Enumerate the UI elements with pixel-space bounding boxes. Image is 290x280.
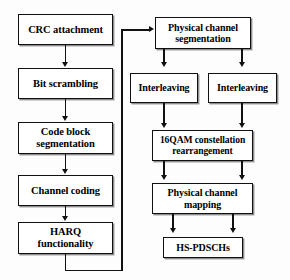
process-box-interleaving-left: Interleaving bbox=[130, 73, 198, 103]
process-box-harq-functionality: HARQ functionality bbox=[18, 222, 113, 254]
process-label-interleaving-right: Interleaving bbox=[215, 82, 270, 93]
process-label-code-block-segmentation: Code block segmentation bbox=[19, 126, 112, 150]
connector-harq-right-segment bbox=[65, 270, 123, 272]
arrowhead-code-block-to-channel-coding bbox=[62, 169, 68, 174]
process-label-crc-attachment: CRC attachment bbox=[26, 24, 105, 36]
process-label-qam-rearrangement: 16QAM constellation rearrangement bbox=[153, 135, 252, 156]
connector-interleaving-right-to-qam bbox=[241, 103, 243, 124]
connector-qam-to-mapping-left bbox=[163, 161, 165, 176]
process-box-interleaving-right: Interleaving bbox=[208, 73, 277, 103]
process-box-code-block-segmentation: Code block segmentation bbox=[18, 122, 113, 154]
process-box-physical-channel-mapping: Physical channel mapping bbox=[152, 183, 253, 214]
arrowhead-harq-to-physical-channel-segmentation bbox=[149, 26, 154, 32]
connector-code-block-to-channel-coding bbox=[65, 154, 67, 170]
process-box-bit-scrambling: Bit scrambling bbox=[18, 68, 113, 99]
arrowhead-segmentation-to-interleaving-left bbox=[161, 62, 167, 67]
process-label-bit-scrambling: Bit scrambling bbox=[31, 78, 100, 90]
connector-harq-into-segmentation bbox=[121, 29, 150, 31]
process-label-physical-channel-segmentation: Physical channel segmentation bbox=[156, 22, 250, 44]
connector-bit-scrambling-to-code-block bbox=[65, 99, 67, 117]
connector-qam-to-mapping-right bbox=[241, 161, 243, 176]
arrowhead-qam-to-mapping-left bbox=[161, 175, 167, 180]
process-box-crc-attachment: CRC attachment bbox=[18, 14, 113, 45]
process-label-harq-functionality: HARQ functionality bbox=[19, 226, 112, 250]
connector-mapping-to-hs-pdschs-right bbox=[232, 214, 234, 229]
process-box-channel-coding: Channel coding bbox=[18, 175, 113, 206]
connector-segmentation-to-interleaving-right bbox=[241, 49, 243, 63]
connector-harq-up-segment bbox=[121, 29, 123, 270]
arrowhead-channel-coding-to-harq bbox=[62, 216, 68, 221]
connector-crc-to-bit-scrambling bbox=[65, 45, 67, 63]
arrowhead-interleaving-left-to-qam bbox=[161, 123, 167, 128]
connector-harq-down-segment bbox=[65, 254, 67, 271]
process-label-channel-coding: Channel coding bbox=[29, 185, 102, 197]
arrowhead-bit-scrambling-to-code-block bbox=[62, 116, 68, 121]
flowchart-canvas: CRC attachment Bit scrambling Code block… bbox=[0, 0, 290, 280]
connector-mapping-to-hs-pdschs-left bbox=[172, 214, 174, 229]
arrowhead-segmentation-to-interleaving-right bbox=[239, 62, 245, 67]
process-label-hs-pdschs: HS-PDSCHs bbox=[174, 242, 232, 253]
process-box-physical-channel-segmentation: Physical channel segmentation bbox=[155, 17, 251, 49]
arrowhead-crc-to-bit-scrambling bbox=[62, 62, 68, 67]
process-label-physical-channel-mapping: Physical channel mapping bbox=[153, 187, 252, 209]
process-box-qam-rearrangement: 16QAM constellation rearrangement bbox=[152, 130, 253, 161]
arrowhead-qam-to-mapping-right bbox=[239, 175, 245, 180]
process-box-hs-pdschs: HS-PDSCHs bbox=[163, 237, 243, 258]
arrowhead-mapping-to-hs-pdschs-right bbox=[230, 228, 236, 233]
connector-interleaving-left-to-qam bbox=[163, 103, 165, 124]
arrowhead-mapping-to-hs-pdschs-left bbox=[170, 228, 176, 233]
connector-segmentation-to-interleaving-left bbox=[163, 49, 165, 63]
arrowhead-interleaving-right-to-qam bbox=[239, 123, 245, 128]
process-label-interleaving-left: Interleaving bbox=[136, 82, 191, 93]
